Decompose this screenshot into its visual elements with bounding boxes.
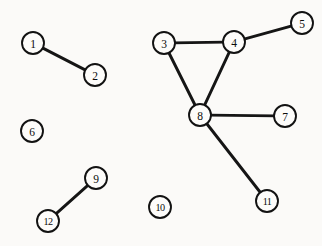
- graph-node-2[interactable]: 2: [84, 64, 106, 86]
- graph-node-12[interactable]: 12: [37, 210, 59, 232]
- graph-node-5[interactable]: 5: [291, 12, 313, 34]
- node-label-2: 2: [92, 70, 98, 82]
- graph-node-4[interactable]: 4: [223, 31, 245, 53]
- graph-node-6[interactable]: 6: [21, 120, 43, 142]
- node-label-9: 9: [93, 173, 99, 185]
- node-label-1: 1: [30, 38, 36, 50]
- edge-3-4: [173, 42, 224, 43]
- graph-node-10[interactable]: 10: [149, 196, 171, 218]
- graph-node-9[interactable]: 9: [85, 167, 107, 189]
- node-label-12: 12: [44, 216, 53, 227]
- graph-node-8[interactable]: 8: [189, 104, 211, 126]
- graph-diagram: 123456789101112: [0, 0, 322, 246]
- graph-node-3[interactable]: 3: [153, 32, 175, 54]
- node-label-11: 11: [263, 196, 272, 207]
- graph-node-7[interactable]: 7: [274, 105, 296, 127]
- graph-node-11[interactable]: 11: [256, 190, 278, 212]
- node-label-5: 5: [299, 18, 305, 30]
- graph-canvas: 123456789101112: [0, 0, 322, 246]
- node-label-7: 7: [282, 111, 288, 123]
- node-label-10: 10: [156, 202, 165, 213]
- node-label-3: 3: [161, 38, 167, 50]
- edge-4-5: [243, 26, 293, 40]
- edge-1-2: [41, 47, 86, 70]
- edge-8-11: [206, 122, 261, 193]
- nodes-layer: 123456789101112: [21, 12, 313, 232]
- graph-node-1[interactable]: 1: [22, 32, 44, 54]
- node-label-8: 8: [197, 110, 203, 122]
- edge-4-8: [204, 51, 230, 107]
- edge-7-8: [209, 115, 275, 116]
- edge-9-12: [55, 184, 89, 214]
- edge-3-8: [168, 51, 196, 106]
- node-label-4: 4: [231, 37, 237, 49]
- node-label-6: 6: [29, 126, 35, 138]
